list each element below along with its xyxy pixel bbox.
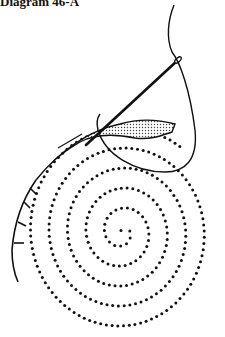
embroidery-diagram: [0, 0, 225, 337]
couched-thread-line: [12, 180, 36, 282]
